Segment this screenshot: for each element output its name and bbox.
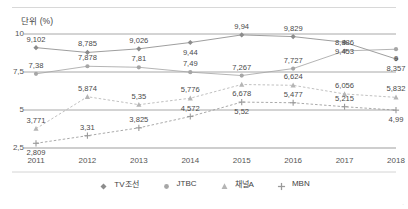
legend-item-MBN[interactable]: MBN <box>276 178 310 189</box>
data-point-value-label: 7,727 <box>284 56 303 65</box>
data-point-value-label: 9,44 <box>183 48 198 57</box>
y-axis-tick-label: 7,5 <box>2 67 24 76</box>
data-point-marker <box>239 82 244 87</box>
x-axis-tick-label: 2016 <box>273 156 313 165</box>
data-point-marker <box>291 66 295 70</box>
data-point-value-label: 9,453 <box>335 47 354 56</box>
y-axis-tick-label: 5 <box>2 105 24 114</box>
data-point-marker <box>136 125 142 131</box>
data-point-marker <box>290 100 296 106</box>
y-axis-tick-label: 10 <box>2 29 24 38</box>
x-axis-tick-label: 2017 <box>325 156 365 165</box>
data-point-value-label: 8,886 <box>335 38 354 47</box>
data-point-marker <box>136 46 141 51</box>
data-point-value-label: 9,026 <box>129 36 148 45</box>
line-chart-figure: 단위 (%) 107,552,5201120122013201420152016… <box>0 0 408 209</box>
data-point-value-label: 8,357 <box>386 64 405 73</box>
data-point-marker <box>84 133 90 139</box>
x-axis-tick-label: 2014 <box>170 156 210 165</box>
circle-marker-icon <box>161 178 172 189</box>
legend-item-label: TV조선 <box>114 178 138 189</box>
legend-item-TV조선[interactable]: TV조선 <box>98 178 138 189</box>
x-axis-tick-label: 2011 <box>16 156 56 165</box>
triangle-marker-icon <box>219 178 230 189</box>
data-point-marker <box>34 72 38 76</box>
data-point-value-label: 7,267 <box>232 63 251 72</box>
data-point-marker <box>85 64 89 68</box>
corner-watermark: · <box>402 201 404 207</box>
diamond-marker-icon <box>98 178 109 189</box>
data-point-value-label: 6,678 <box>232 89 251 98</box>
data-point-value-label: 9,94 <box>234 22 249 31</box>
x-axis-tick-label: 2013 <box>119 156 159 165</box>
data-point-marker <box>240 73 244 77</box>
data-point-value-label: 3,771 <box>26 116 45 125</box>
data-point-marker <box>393 107 399 113</box>
legend-item-JTBC[interactable]: JTBC <box>161 178 197 189</box>
data-point-marker <box>33 140 39 146</box>
data-point-value-label: 7,878 <box>78 53 97 62</box>
data-point-value-label: 4,572 <box>181 104 200 113</box>
data-point-value-label: 9,829 <box>284 24 303 33</box>
legend-item-label: MBN <box>292 179 310 188</box>
data-point-marker <box>188 70 192 74</box>
data-point-marker <box>291 34 296 39</box>
data-point-value-label: 5,776 <box>181 85 200 94</box>
chart-legend: TV조선JTBC채널AMBN <box>0 178 408 189</box>
data-point-marker <box>341 104 347 110</box>
data-point-value-label: 5,477 <box>284 90 303 99</box>
data-point-value-label: 5,215 <box>335 94 354 103</box>
data-point-marker <box>239 32 244 37</box>
data-point-marker <box>137 65 141 69</box>
data-point-marker <box>394 47 398 51</box>
data-point-marker <box>188 95 193 100</box>
data-point-marker <box>33 126 38 131</box>
data-point-value-label: 9 <box>394 54 398 63</box>
data-point-value-label: 5,52 <box>234 107 249 116</box>
y-axis-tick-label: 2,5 <box>2 143 24 152</box>
legend-item-label: 채널A <box>235 178 254 189</box>
legend-item-label: JTBC <box>177 179 197 188</box>
data-point-marker <box>239 99 245 105</box>
x-axis-tick-label: 2018 <box>376 156 408 165</box>
data-point-value-label: 7,49 <box>183 59 198 68</box>
data-point-marker <box>85 94 90 99</box>
legend-item-채널A[interactable]: 채널A <box>219 178 254 189</box>
data-point-value-label: 3,825 <box>129 115 148 124</box>
data-point-marker <box>33 45 38 50</box>
data-point-value-label: 2,809 <box>26 148 45 157</box>
x-axis-tick-label: 2012 <box>67 156 107 165</box>
data-point-marker <box>188 40 193 45</box>
x-axis-tick-label: 2015 <box>222 156 262 165</box>
data-point-value-label: 7,38 <box>29 61 44 70</box>
plus-marker-icon <box>276 178 287 189</box>
data-point-value-label: 6,056 <box>335 81 354 90</box>
data-point-value-label: 9,102 <box>26 35 45 44</box>
data-point-value-label: 5,874 <box>78 84 97 93</box>
data-point-value-label: 3,31 <box>80 123 95 132</box>
data-point-value-label: 6,624 <box>284 72 303 81</box>
data-point-marker <box>187 113 193 119</box>
data-point-value-label: 7,81 <box>131 54 146 63</box>
data-point-value-label: 8,785 <box>78 39 97 48</box>
data-point-value-label: 5,832 <box>386 84 405 93</box>
data-point-value-label: 4,99 <box>389 115 404 124</box>
data-point-value-label: 5,35 <box>131 92 146 101</box>
